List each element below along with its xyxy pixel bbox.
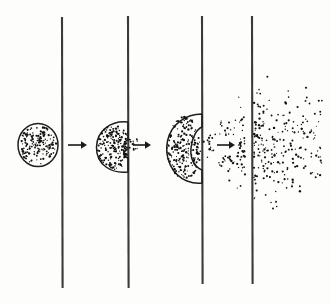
stipple-dot [36,155,38,157]
stipple-dot [110,167,112,169]
stipple-dot [45,145,47,147]
stage-3-bulging-mass [167,97,246,189]
stipple-dot [258,89,260,91]
stipple-dot [32,134,34,136]
stipple-dot [181,130,183,132]
stipple-dot [33,141,34,142]
stipple-dot [296,165,298,167]
stipple-dot [106,149,108,151]
stipple-dot [288,119,290,121]
stipple-dot [198,147,199,148]
membranes-group [62,16,253,288]
stipple-dot [22,143,23,144]
stipple-dot [315,176,317,178]
stipple-dot [271,156,273,158]
stipple-dot [291,178,293,180]
stage-1-stipple [21,126,58,164]
stipple-dot [187,128,189,130]
stipple-dot [22,152,24,154]
stipple-dot [275,119,277,121]
stipple-dot [192,150,193,151]
stipple-dot [177,146,179,148]
stipple-dot [188,124,190,126]
stipple-dot [179,162,180,163]
stipple-dot [292,158,294,160]
stipple-dot [36,159,37,160]
stipple-dot [48,152,49,153]
membrane-1 [62,17,63,288]
stipple-dot [197,142,199,144]
stipple-dot [254,175,256,177]
stipple-dot [263,105,265,107]
stipple-dot [110,142,112,144]
stipple-dot [167,154,168,155]
stipple-dot [44,148,46,150]
stipple-dot [243,116,245,118]
stipple-dot [113,148,115,150]
stipple-dot [117,125,119,127]
stipple-dot [117,144,118,145]
stipple-dot [119,137,120,138]
stipple-dot [224,155,226,157]
stipple-dot [257,148,259,150]
stipple-dot [117,133,119,135]
stipple-dot [295,153,297,155]
stipple-dot [295,149,296,150]
stipple-dot [254,179,256,181]
stipple-dot [22,135,23,136]
stipple-dot [101,132,103,134]
stipple-dot [276,171,278,173]
stipple-dot [293,131,295,133]
stipple-dot [299,147,301,149]
stipple-dot [297,155,299,157]
stipple-dot [213,150,215,152]
stipple-dot [199,142,200,143]
stipple-dot [319,174,321,176]
stipple-dot [183,176,185,178]
stipple-dot [180,169,182,171]
stipple-dot [266,140,268,142]
stipple-dot [122,159,124,161]
stage-2-pressed-mass [96,122,137,173]
stipple-dot [104,139,106,141]
stipple-dot [301,128,303,130]
stipple-dot [305,119,306,120]
stipple-dot [186,160,187,161]
stipple-dot [283,155,285,157]
stipple-dot [47,145,49,147]
stipple-dot [209,135,211,137]
stipple-dot [100,154,102,156]
stipple-dot [282,162,284,164]
stipple-dot [39,140,41,142]
stipple-dot [137,148,138,149]
stipple-dot [274,172,275,173]
stipple-dot [211,137,213,139]
stipple-dot [300,157,302,159]
stipple-dot [30,129,31,130]
stipple-dot [120,152,121,153]
stipple-dot [260,134,262,136]
stipple-dot [229,158,231,160]
stipple-dot [118,128,119,129]
stipple-dot [175,159,177,161]
stipple-dot [39,149,40,150]
stipple-dot [320,160,322,162]
stipple-dot [177,120,179,122]
stipple-dot [287,130,288,131]
stipple-dot [30,160,32,162]
stipple-dot [188,143,190,145]
figure-canvas [0,0,331,304]
stipple-dot [287,178,289,180]
stipple-dot [45,142,46,143]
stipple-dot [181,150,183,152]
stipple-dot [267,149,269,151]
stipple-dot [258,144,259,145]
stipple-dot [273,180,275,182]
membrane-2 [128,16,129,288]
stipple-dot [46,153,48,155]
stipple-dot [271,149,273,151]
stipple-dot [47,147,48,148]
stipple-dot [99,150,101,152]
stipple-dot [196,161,198,163]
stipple-dot [115,135,117,137]
